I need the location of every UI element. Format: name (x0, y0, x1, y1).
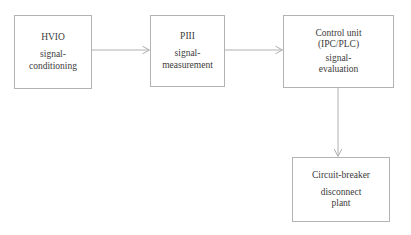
arrow-hvio-to-piii (92, 44, 150, 56)
arrow-control-to-breaker (332, 88, 344, 157)
node-hvio-subtitle-line2: conditioning (29, 61, 77, 72)
node-piii-title: PIII (180, 31, 195, 42)
node-control-unit-title: Control unit (315, 28, 361, 39)
diagram-canvas: HVIO signal- conditioning PIII signal- m… (0, 0, 411, 235)
node-circuit-breaker-subtitle-line1: disconnect (321, 187, 362, 198)
node-circuit-breaker-title: Circuit-breaker (312, 170, 370, 181)
node-control-unit[interactable]: Control unit (IPC/PLC) signal- evaluatio… (283, 15, 394, 88)
node-control-unit-subtitle-line2: evaluation (319, 64, 359, 75)
node-piii-subtitle-line2: measurement (162, 60, 213, 71)
node-piii[interactable]: PIII signal- measurement (150, 15, 225, 87)
node-circuit-breaker[interactable]: Circuit-breaker disconnect plant (292, 157, 390, 222)
arrow-piii-to-control (225, 44, 283, 56)
node-piii-subtitle-line1: signal- (175, 48, 201, 59)
node-hvio[interactable]: HVIO signal- conditioning (14, 15, 92, 89)
node-control-unit-subtitle-line1: signal- (326, 53, 352, 64)
node-control-unit-title2: (IPC/PLC) (318, 39, 359, 50)
node-hvio-title: HVIO (41, 32, 65, 43)
node-circuit-breaker-subtitle-line2: plant (332, 198, 351, 209)
node-hvio-subtitle-line1: signal- (40, 49, 66, 60)
